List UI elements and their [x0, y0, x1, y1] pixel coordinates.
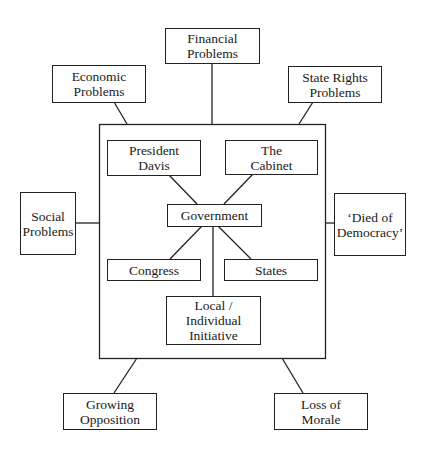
congress-label: Congress [129, 263, 179, 278]
growing-opposition-box: Growing Opposition [63, 393, 157, 430]
states-label: States [255, 263, 287, 278]
president-davis-box: President Davis [107, 140, 201, 176]
connector-economic [114, 102, 127, 124]
the-cabinet-label: The Cabinet [251, 143, 293, 173]
state-rights-problems-label: State Rights Problems [302, 70, 368, 100]
connector-davis-government [169, 175, 197, 204]
government-label: Government [181, 208, 248, 223]
president-davis-label: President Davis [129, 143, 179, 173]
states-box: States [224, 259, 318, 281]
the-cabinet-box: The Cabinet [225, 140, 318, 175]
connector-loss-of-morale [282, 358, 303, 393]
growing-opposition-label: Growing Opposition [80, 397, 140, 427]
loss-of-morale-label: Loss of Morale [301, 397, 341, 427]
social-problems-label: Social Problems [23, 209, 74, 239]
state-rights-problems-box: State Rights Problems [288, 66, 382, 103]
connector-cabinet-government [224, 174, 253, 204]
connector-government-congress [170, 226, 202, 259]
connector-growing-opposition [114, 358, 137, 393]
died-of-democracy-label: ‘Died of Democracy’ [337, 210, 404, 240]
local-individual-initiative-box: Local / Individual Initiative [166, 296, 261, 345]
financial-problems-box: Financial Problems [165, 28, 260, 64]
economic-problems-box: Economic Problems [52, 65, 146, 103]
social-problems-box: Social Problems [20, 192, 76, 255]
connector-government-states [218, 226, 251, 259]
local-individual-initiative-label: Local / Individual Initiative [186, 298, 242, 343]
financial-problems-label: Financial Problems [187, 31, 238, 61]
government-box: Government [167, 204, 262, 227]
died-of-democracy-box: ‘Died of Democracy’ [334, 193, 406, 256]
economic-problems-label: Economic Problems [72, 69, 127, 99]
connector-state-rights [299, 102, 313, 124]
loss-of-morale-box: Loss of Morale [274, 393, 368, 430]
congress-box: Congress [107, 259, 201, 281]
